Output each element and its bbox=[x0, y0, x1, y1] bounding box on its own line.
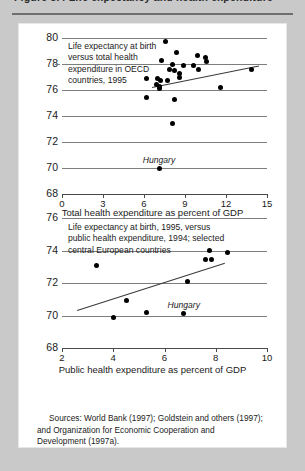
chart1-data-point bbox=[177, 75, 182, 80]
chart1-data-point bbox=[172, 97, 177, 102]
chart1-data-point bbox=[218, 85, 223, 90]
chart2-ytick-label: 70 bbox=[36, 310, 58, 320]
chart1-data-point bbox=[249, 67, 254, 72]
chart2-caption: Life expectancy at birth, 1995, versus p… bbox=[68, 222, 234, 256]
sources-block: Sources: World Bank (1997); Goldstein an… bbox=[37, 413, 265, 448]
chart2-gridline bbox=[62, 316, 267, 317]
chart1-data-point bbox=[144, 95, 149, 100]
chart1-ytick-label: 80 bbox=[36, 32, 58, 42]
chart2-xtick-label: 4 bbox=[103, 352, 123, 363]
chart2-data-point bbox=[209, 257, 214, 262]
chart2-data-point bbox=[144, 310, 149, 315]
chart2-xtick-label: 8 bbox=[206, 352, 226, 363]
chart1-data-point bbox=[163, 39, 168, 44]
chart1-x-axis-line bbox=[62, 194, 267, 195]
chart2-annotation-hungary: Hungary bbox=[167, 300, 199, 310]
chart1-data-point bbox=[191, 63, 196, 68]
chart1-ytick-label: 78 bbox=[36, 58, 58, 68]
chart1-gridline bbox=[62, 116, 267, 117]
chart2-trendline bbox=[77, 263, 225, 311]
chart2-data-point bbox=[94, 263, 99, 268]
chart1-data-point bbox=[195, 53, 200, 58]
chart1-ytick-label: 70 bbox=[36, 162, 58, 172]
chart2-data-point bbox=[203, 257, 208, 262]
chart2-gridline bbox=[62, 283, 267, 284]
chart1-gridline bbox=[62, 90, 267, 91]
chart1-data-point bbox=[170, 62, 175, 67]
figure-title-strip: Figure 3.4 Life expectancy and health ex… bbox=[0, 0, 305, 22]
chart1-data-point bbox=[172, 68, 177, 73]
chart2-xtick-label: 6 bbox=[155, 352, 175, 363]
chart1-gridline bbox=[62, 142, 267, 143]
chart-oecd-total-expenditure: 03691215Hungary Life expectancy at birth… bbox=[19, 24, 286, 219]
chart1-gridline bbox=[62, 168, 267, 169]
chart1-ytick-label: 74 bbox=[36, 110, 58, 120]
chart2-data-point bbox=[124, 298, 129, 303]
chart2-ytick-label: 74 bbox=[36, 245, 58, 255]
sources-label: Sources: bbox=[37, 413, 82, 423]
chart2-ytick-label: 68 bbox=[36, 342, 58, 352]
chart1-data-point bbox=[170, 121, 175, 126]
chart1-ytick-label: 72 bbox=[36, 136, 58, 146]
chart2-gridline bbox=[62, 218, 267, 219]
figure-title: Figure 3.4 Life expectancy and health ex… bbox=[14, 0, 273, 3]
chart1-data-point bbox=[174, 50, 179, 55]
chart1-data-point bbox=[157, 166, 162, 171]
chart1-data-point bbox=[157, 86, 162, 91]
chart2-data-point bbox=[185, 279, 190, 284]
chart1-data-point bbox=[196, 67, 201, 72]
chart2-data-point bbox=[111, 315, 116, 320]
title-divider bbox=[12, 13, 293, 15]
chart2-xaxis-title: Public health expenditure as percent of … bbox=[19, 364, 286, 376]
chart1-annotation-hungary: Hungary bbox=[143, 155, 175, 165]
chart2-ytick-label: 72 bbox=[36, 277, 58, 287]
chart1-caption: Life expectancy at birth versus total he… bbox=[68, 41, 163, 87]
chart2-xtick-label: 2 bbox=[52, 352, 72, 363]
chart1-ytick-dash bbox=[55, 64, 60, 65]
chart1-ytick-label: 76 bbox=[36, 84, 58, 94]
chart2-xtick-label: 10 bbox=[257, 352, 277, 363]
chart-central-europe-public-expenditure: 246810Hungary Life expectancy at birth, … bbox=[19, 196, 286, 411]
chart2-ytick-label: 76 bbox=[36, 212, 58, 222]
chart1-data-point bbox=[181, 63, 186, 68]
